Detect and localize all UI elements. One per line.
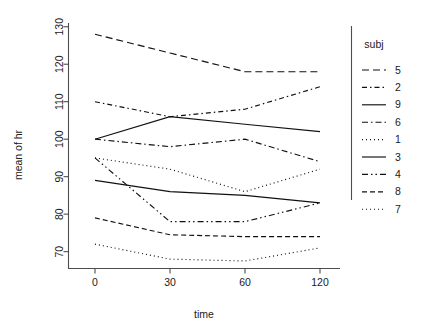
y-tick-label: 100: [54, 130, 66, 148]
x-axis-title: time: [194, 308, 214, 320]
x-tick-label: 60: [239, 276, 251, 288]
chart-canvas: 708090100110120130 03060120 subj52961348…: [0, 0, 431, 333]
y-tick-label: 90: [54, 171, 66, 183]
legend-label-4: 4: [395, 168, 401, 180]
legend-label-9: 9: [395, 98, 401, 110]
y-axis-title: mean of hr: [12, 129, 24, 180]
x-tick-label: 0: [92, 276, 98, 288]
y-tick-label: 120: [54, 55, 66, 73]
legend-label-7: 7: [395, 203, 401, 215]
y-tick-label: 130: [54, 18, 66, 36]
legend-label-2: 2: [395, 81, 401, 93]
x-tick-label: 30: [164, 276, 176, 288]
legend-label-6: 6: [395, 116, 401, 128]
x-tick-label: 120: [311, 276, 329, 288]
legend-label-5: 5: [395, 64, 401, 76]
interaction-plot: 708090100110120130 03060120 subj52961348…: [0, 0, 431, 333]
y-tick-label: 80: [54, 208, 66, 220]
legend-label-1: 1: [395, 133, 401, 145]
legend-label-8: 8: [395, 185, 401, 197]
y-tick-label: 70: [54, 246, 66, 258]
legend-label-3: 3: [395, 151, 401, 163]
y-tick-label: 110: [54, 93, 66, 110]
legend-title: subj: [364, 38, 383, 50]
